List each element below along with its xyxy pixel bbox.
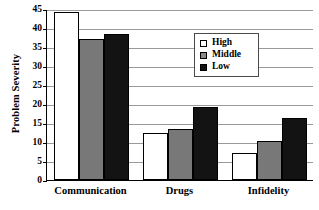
chart-legend: HighMiddleLow [194,33,259,77]
x-axis-tick-label: Infidelity [224,185,313,196]
y-axis-tick-label: 0 [22,176,42,186]
bar [232,153,257,180]
bar [79,39,104,180]
y-axis-tick [43,105,47,106]
bar [282,118,307,180]
legend-label: Middle [212,50,241,60]
legend-swatch-icon [200,40,207,47]
y-axis-tick-label: 25 [22,81,42,91]
y-axis-tick [43,143,47,144]
legend-swatch-icon [200,64,207,71]
bar-chart: Problem Severity 051015202530354045 Comm… [0,0,319,210]
y-axis-tick-label: 5 [22,157,42,167]
y-axis-tick-label: 10 [22,138,42,148]
y-axis-tick-labels: 051015202530354045 [20,0,42,210]
y-axis-tick [43,181,47,182]
plot-area [46,10,313,181]
y-axis-tick [43,10,47,11]
x-axis-tick-label: Communication [46,185,135,196]
y-axis-tick-label: 35 [22,43,42,53]
y-axis-tick [43,29,47,30]
bar [54,12,79,180]
y-axis-tick [43,67,47,68]
x-axis-tick-label: Drugs [135,185,224,196]
legend-label: High [212,38,232,48]
gridline [47,29,313,30]
legend-item: Low [200,61,254,73]
y-axis-tick-label: 15 [22,119,42,129]
y-axis-tick-label: 45 [22,5,42,15]
bar [104,34,129,180]
bar [143,133,168,180]
gridline [47,10,313,11]
y-axis-tick [43,86,47,87]
bar [168,129,193,180]
bar [257,141,282,180]
y-axis-tick-label: 30 [22,62,42,72]
bar [193,107,218,180]
legend-item: High [200,37,254,49]
legend-swatch-icon [200,52,207,59]
legend-label: Low [212,62,230,72]
y-axis-tick [43,162,47,163]
y-axis-tick [43,124,47,125]
y-axis-tick-label: 40 [22,24,42,34]
y-axis-tick-label: 20 [22,100,42,110]
y-axis-title: Problem Severity [10,34,21,154]
y-axis-tick [43,48,47,49]
legend-item: Middle [200,49,254,61]
